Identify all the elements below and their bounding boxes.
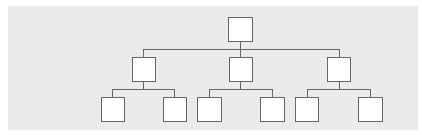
- node-leaf-5: [295, 97, 319, 122]
- node-leaf-1: [101, 97, 125, 122]
- connector-mid-center-down: [240, 82, 241, 89]
- connector-mid-right-down: [339, 82, 340, 89]
- connector-mid-left-bus: [112, 89, 175, 90]
- connector-to-leaf-3: [209, 89, 210, 97]
- node-mid-center: [229, 57, 253, 82]
- node-mid-left: [132, 57, 156, 82]
- connector-to-leaf-1: [112, 89, 113, 97]
- connector-to-mid-right: [339, 49, 340, 57]
- node-root: [228, 17, 253, 42]
- node-leaf-4: [260, 97, 285, 122]
- connector-root-down: [240, 42, 241, 49]
- node-leaf-3: [197, 97, 222, 122]
- connector-to-mid-left: [143, 49, 144, 57]
- connector-level1-bus: [143, 49, 340, 50]
- node-leaf-2: [163, 97, 187, 122]
- node-mid-right: [327, 57, 351, 82]
- connector-mid-right-bus: [307, 89, 371, 90]
- connector-to-leaf-4: [272, 89, 273, 97]
- connector-to-mid-center: [240, 49, 241, 57]
- node-leaf-6: [358, 97, 383, 122]
- connector-mid-center-bus: [209, 89, 273, 90]
- connector-to-leaf-2: [174, 89, 175, 97]
- connector-mid-left-down: [143, 82, 144, 89]
- connector-to-leaf-6: [370, 89, 371, 97]
- connector-to-leaf-5: [307, 89, 308, 97]
